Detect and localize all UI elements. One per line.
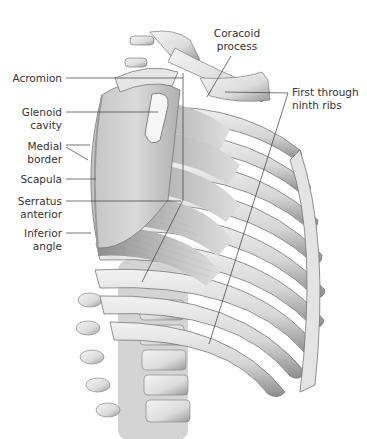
label-text: ninth ribs [292, 99, 367, 112]
label-text: process [208, 40, 266, 53]
label-text: Medial [10, 140, 62, 153]
label-acromion: Acromion [10, 72, 62, 85]
label-text: Acromion [10, 72, 62, 85]
label-text: border [10, 153, 62, 166]
label-first-through-ninth-ribs: First through ninth ribs [292, 86, 367, 111]
label-medial-border: Medial border [10, 140, 62, 165]
label-coracoid-process: Coracoid process [208, 27, 266, 52]
label-text: Coracoid [208, 27, 266, 40]
label-text: anterior [10, 208, 62, 221]
label-serratus-anterior: Serratus anterior [10, 195, 62, 220]
label-text: Inferior [10, 227, 62, 240]
label-text: cavity [10, 119, 62, 132]
label-scapula: Scapula [10, 173, 62, 186]
label-text: angle [10, 240, 62, 253]
label-text: Serratus [10, 195, 62, 208]
label-text: First through [292, 86, 367, 99]
label-text: Scapula [10, 173, 62, 186]
label-text: Glenoid [10, 106, 62, 119]
label-inferior-angle: Inferior angle [10, 227, 62, 252]
label-glenoid-cavity: Glenoid cavity [10, 106, 62, 131]
